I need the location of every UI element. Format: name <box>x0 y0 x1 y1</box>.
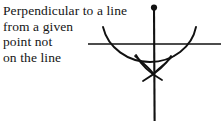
figure-panel: Perpendicular to a line from a given poi… <box>0 0 221 121</box>
given-point-dot <box>151 4 157 10</box>
geometry-diagram <box>0 0 221 121</box>
bisector-arc-left-upper <box>135 56 153 73</box>
perpendicular-line <box>154 7 155 121</box>
bisector-arc-right-upper <box>154 57 172 73</box>
